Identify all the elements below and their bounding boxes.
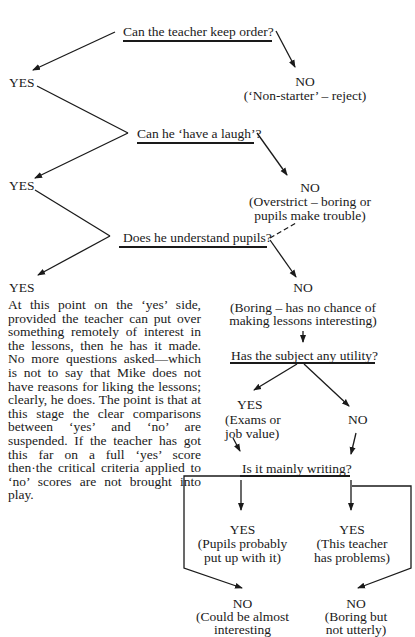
arrow-q3-no	[270, 240, 296, 277]
arrow-q2-yes	[35, 133, 128, 178]
arrow-q4-no	[304, 364, 349, 406]
arrow-utility-no-writing	[351, 433, 356, 454]
question-have-a-laugh: Can he ‘have a laugh’?	[137, 126, 261, 141]
no-note-1: (‘Non-starter’ – reject)	[230, 88, 380, 103]
arrow-q2-no	[257, 133, 287, 175]
writing-left-yes-note-line-2: put up with it)	[190, 550, 295, 565]
yes-label-1: YES	[9, 75, 35, 90]
question-subject-utility: Has the subject any utility?	[231, 348, 378, 363]
question-understand-pupils: Does he understand pupils?	[123, 230, 272, 245]
writing-left-yes-label: YES	[190, 522, 295, 537]
writing-left-no-note-line-2: interesting	[190, 622, 295, 637]
writing-right-yes-label: YES	[302, 522, 402, 537]
dashed-q3-no2	[270, 223, 296, 238]
underline-question-3	[119, 246, 267, 248]
question-mainly-writing: Is it mainly writing?	[242, 461, 352, 476]
underline-question-1	[123, 40, 272, 42]
utility-yes-label: YES	[237, 397, 263, 412]
no-label-1: NO	[240, 74, 370, 89]
no-note-2-line-1: (Overstrict – boring or	[225, 194, 395, 209]
yes-label-2: YES	[9, 178, 35, 193]
arrow-q3-yes	[38, 236, 110, 275]
arrow-q4-yes	[254, 364, 297, 390]
arrow-q1-yes	[33, 32, 115, 70]
underline-question-5	[240, 475, 350, 477]
no-label-3: NO	[238, 280, 368, 295]
writing-right-no-note-line-2: not utterly)	[306, 622, 406, 637]
utility-no-label: NO	[348, 412, 368, 427]
line-yes2-q3	[35, 190, 110, 236]
writing-right-yes-note-line-1: (This teacher	[302, 536, 402, 551]
writing-right-yes-note-line-2: has problems)	[302, 550, 402, 565]
question-keep-order: Can the teacher keep order?	[123, 24, 274, 39]
underline-question-2	[137, 142, 254, 144]
underline-question-4	[230, 362, 375, 364]
yes-label-3: YES	[9, 280, 35, 295]
writing-left-yes-note-line-1: (Pupils probably	[190, 536, 295, 551]
explanatory-paragraph: At this point on the ‘yes’ side, provide…	[8, 298, 201, 502]
line-yes1-q2	[37, 86, 128, 133]
arrow-q1-no	[276, 31, 295, 67]
no-note-2-line-2: pupils make trouble)	[225, 208, 395, 223]
no-label-2: NO	[245, 180, 375, 195]
utility-yes-note-line-2: job value)	[225, 426, 279, 441]
utility-yes-note-line-1: (Exams or	[225, 412, 281, 427]
no-note-3-line-2: making lessons interesting)	[213, 313, 393, 328]
